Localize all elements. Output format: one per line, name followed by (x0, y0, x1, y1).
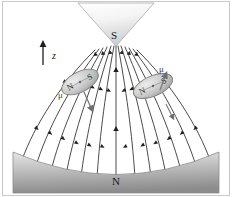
field-line (22, 50, 95, 160)
top-pole-label: S (111, 29, 117, 41)
z-axis-label: z (52, 50, 56, 61)
field-line (81, 46, 111, 177)
field-lines (22, 46, 210, 178)
right-dipole-extra-arrow (166, 104, 173, 118)
figure-canvas: N S N S S N z μ μ (0, 0, 232, 197)
field-line (118, 46, 135, 178)
field-line (137, 50, 210, 160)
field-line (133, 49, 196, 166)
field-line (36, 49, 99, 166)
field-line (51, 48, 103, 171)
left-dipole: N S (58, 64, 103, 100)
field-line (121, 46, 151, 177)
right-dipole-moment-label: μ (159, 64, 164, 74)
left-dipole-moment-label: μ (58, 90, 63, 100)
field-line (129, 48, 181, 171)
bottom-pole-label: N (112, 175, 120, 187)
field-line (97, 46, 114, 178)
